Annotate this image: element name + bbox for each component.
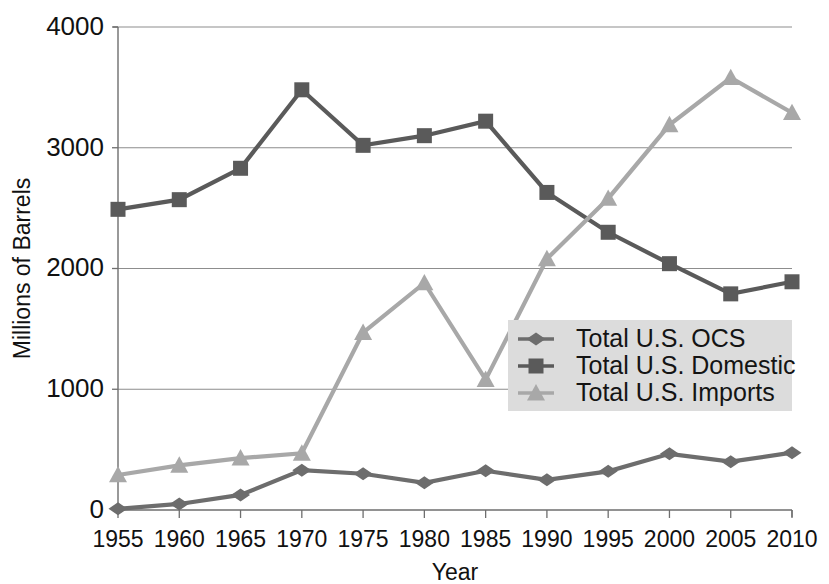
data-point-marker (783, 104, 801, 120)
y-tick-labels: 01000200030004000 (46, 11, 104, 524)
data-point-marker (662, 256, 677, 271)
x-tick-label: 1955 (92, 526, 143, 552)
data-point-marker (539, 185, 554, 200)
y-tick-label: 2000 (46, 252, 104, 282)
data-point-marker (356, 138, 371, 153)
data-point-marker (111, 202, 126, 217)
x-tick-label: 1980 (399, 526, 450, 552)
legend-key-marker (529, 359, 544, 374)
data-point-marker (660, 447, 679, 460)
data-point-marker (721, 455, 740, 468)
x-tick-labels: 1955196019651970197519801985199019952000… (92, 526, 817, 552)
data-point-marker (417, 128, 432, 143)
y-tick-label: 4000 (46, 11, 104, 41)
data-point-marker (170, 497, 189, 510)
data-series-group (109, 69, 802, 516)
data-point-marker (783, 446, 802, 459)
x-tick-label: 1960 (154, 526, 205, 552)
legend-item-label: Total U.S. OCS (576, 324, 746, 352)
data-point-marker (722, 69, 740, 85)
x-tick-label: 1995 (583, 526, 634, 552)
line-chart: 01000200030004000 1955196019651970197519… (0, 0, 829, 584)
data-point-marker (478, 114, 493, 129)
data-point-marker (785, 274, 800, 289)
x-tick-label: 2010 (766, 526, 817, 552)
x-tick-label: 1990 (521, 526, 572, 552)
series-line (118, 90, 792, 294)
chart-legend: Total U.S. OCSTotal U.S. DomesticTotal U… (508, 320, 796, 411)
legend-item-label: Total U.S. Imports (576, 378, 775, 406)
x-axis-title: Year (432, 559, 479, 584)
y-axis-title: Millions of Barrels (9, 178, 35, 360)
x-tick-label: 2000 (644, 526, 695, 552)
data-point-marker (233, 161, 248, 176)
y-tick-label: 1000 (46, 373, 104, 403)
data-point-marker (476, 464, 495, 477)
x-tick-label: 1965 (215, 526, 266, 552)
data-point-marker (354, 467, 373, 480)
data-point-marker (601, 225, 616, 240)
data-point-marker (599, 465, 618, 478)
y-tick-label: 3000 (46, 132, 104, 162)
x-tick-label: 2005 (705, 526, 756, 552)
chart-canvas: 01000200030004000 1955196019651970197519… (0, 0, 829, 584)
legend-item-label: Total U.S. Domestic (576, 351, 796, 379)
data-point-marker (294, 82, 309, 97)
x-tick-label: 1975 (338, 526, 389, 552)
series-total-u-s-ocs (109, 446, 802, 515)
x-tick-label: 1970 (276, 526, 327, 552)
data-point-marker (415, 476, 434, 489)
data-point-marker (723, 286, 738, 301)
data-point-marker (109, 502, 128, 515)
x-tick-label: 1985 (460, 526, 511, 552)
data-point-marker (537, 473, 556, 486)
data-point-marker (415, 274, 433, 290)
y-tick-label: 0 (90, 494, 104, 524)
data-point-marker (172, 192, 187, 207)
